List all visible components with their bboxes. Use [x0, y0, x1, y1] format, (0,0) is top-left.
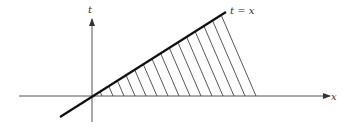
hatch-line — [135, 70, 146, 96]
hatch-line — [126, 75, 135, 96]
hatch-line — [221, 15, 256, 96]
hatch-line — [143, 64, 157, 96]
t-axis-label: t — [88, 4, 93, 15]
hatch-line — [109, 86, 113, 96]
hatch-line — [161, 53, 179, 96]
line-label: t = x — [230, 5, 255, 16]
diagram-canvas: t x t = x — [0, 0, 347, 131]
hatched-region — [100, 15, 256, 96]
hatch-line — [169, 48, 190, 96]
hatch-line — [117, 81, 124, 96]
hatch-line — [178, 42, 201, 96]
line-t-equals-x — [60, 12, 226, 117]
hatch-line — [187, 37, 212, 96]
hatch-line — [195, 32, 223, 97]
x-axis-label: x — [331, 91, 337, 102]
